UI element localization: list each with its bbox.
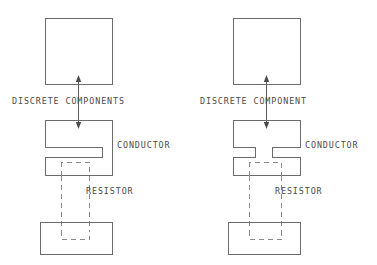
left-resistor-label: RESISTOR [86, 186, 134, 196]
diagram-svg: DISCRETE COMPONENTS CONDUCTOR RESISTOR [0, 0, 377, 265]
right-resistor-dash-bottom [250, 231, 282, 240]
right-callout-label: DISCRETE COMPONENT [200, 96, 307, 106]
left-arrow-head-up [76, 75, 81, 82]
left-bottom-box [41, 223, 113, 255]
right-arrow-head-down [264, 122, 269, 129]
right-conductor-label: CONDUCTOR [305, 140, 359, 150]
right-arrow-head-up [264, 75, 269, 82]
right-resistor-dash-top [250, 163, 282, 176]
left-arrow-head-down [76, 122, 81, 129]
left-panel: DISCRETE COMPONENTS CONDUCTOR RESISTOR [12, 19, 171, 255]
left-conductor-label: CONDUCTOR [117, 140, 171, 150]
left-resistor-dash-bottom [62, 231, 90, 240]
left-resistor-dash-top [62, 163, 90, 176]
left-callout-label: DISCRETE COMPONENTS [12, 96, 125, 106]
right-top-box [234, 19, 301, 85]
left-top-box [46, 19, 113, 85]
right-bottom-box [229, 223, 301, 255]
right-panel: DISCRETE COMPONENT CONDUCTOR RESISTOR [200, 19, 359, 255]
diagram-canvas: DISCRETE COMPONENTS CONDUCTOR RESISTOR [0, 0, 377, 265]
right-conductor-shape [234, 121, 301, 176]
right-resistor-label: RESISTOR [275, 186, 323, 196]
left-conductor-shape [46, 121, 113, 176]
